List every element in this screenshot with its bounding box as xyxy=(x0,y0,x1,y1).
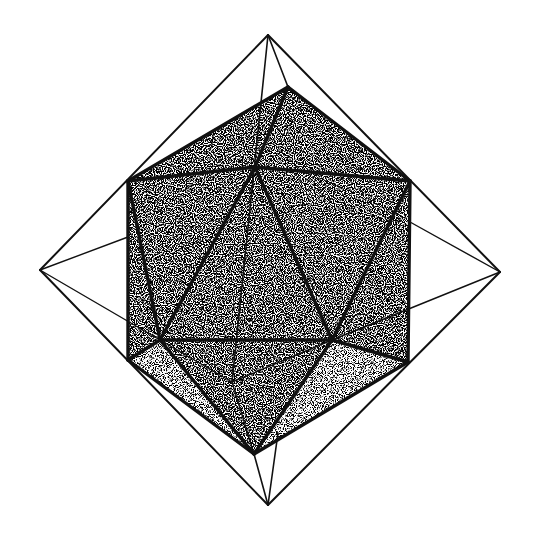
oct-inner-right-D xyxy=(410,222,500,272)
icosahedron-octahedron-diagram xyxy=(0,0,541,534)
ico-edge-D-H xyxy=(408,181,410,362)
oct-inner-left-B xyxy=(40,237,128,270)
figure-canvas xyxy=(0,0,541,534)
oct-inner-top-A xyxy=(268,35,288,87)
